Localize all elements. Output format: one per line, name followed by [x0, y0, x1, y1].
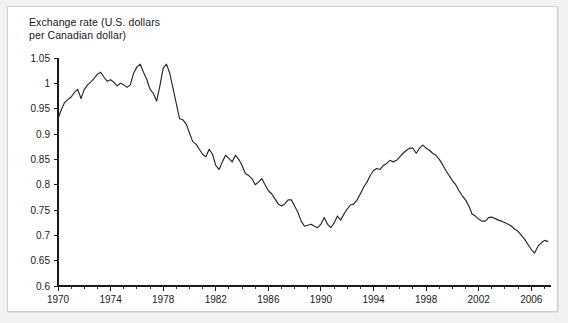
svg-text:1978: 1978 — [152, 294, 175, 305]
svg-text:0.8: 0.8 — [36, 179, 50, 190]
svg-text:0.65: 0.65 — [31, 255, 51, 266]
exchange-rate-line-series — [58, 64, 548, 253]
svg-text:1970: 1970 — [47, 294, 70, 305]
svg-text:1982: 1982 — [205, 294, 228, 305]
line-chart-plot: 0.60.650.70.750.80.850.90.9511.05 197019… — [8, 7, 559, 313]
x-axis-tick-labels: 1970197419781982198619901994199820022006 — [47, 294, 543, 305]
svg-text:1: 1 — [44, 78, 50, 89]
svg-text:1998: 1998 — [415, 294, 438, 305]
svg-text:1.05: 1.05 — [31, 53, 51, 64]
axes-group — [58, 58, 551, 286]
svg-text:0.95: 0.95 — [31, 103, 51, 114]
svg-text:0.6: 0.6 — [36, 281, 50, 292]
y-axis-tick-labels: 0.60.650.70.750.80.850.90.9511.05 — [31, 53, 51, 292]
svg-text:0.85: 0.85 — [31, 154, 51, 165]
svg-text:0.7: 0.7 — [36, 230, 50, 241]
figure-card: Exchange rate (U.S. dollars per Canadian… — [7, 6, 558, 312]
svg-text:1994: 1994 — [362, 294, 385, 305]
svg-text:1974: 1974 — [99, 294, 122, 305]
svg-text:2002: 2002 — [468, 294, 491, 305]
tick-marks-group — [54, 58, 544, 291]
svg-text:0.75: 0.75 — [31, 205, 51, 216]
svg-text:0.9: 0.9 — [36, 129, 50, 140]
figure-outer-frame: Exchange rate (U.S. dollars per Canadian… — [0, 0, 568, 323]
svg-text:1990: 1990 — [310, 294, 333, 305]
svg-text:1986: 1986 — [257, 294, 280, 305]
svg-text:2006: 2006 — [520, 294, 543, 305]
